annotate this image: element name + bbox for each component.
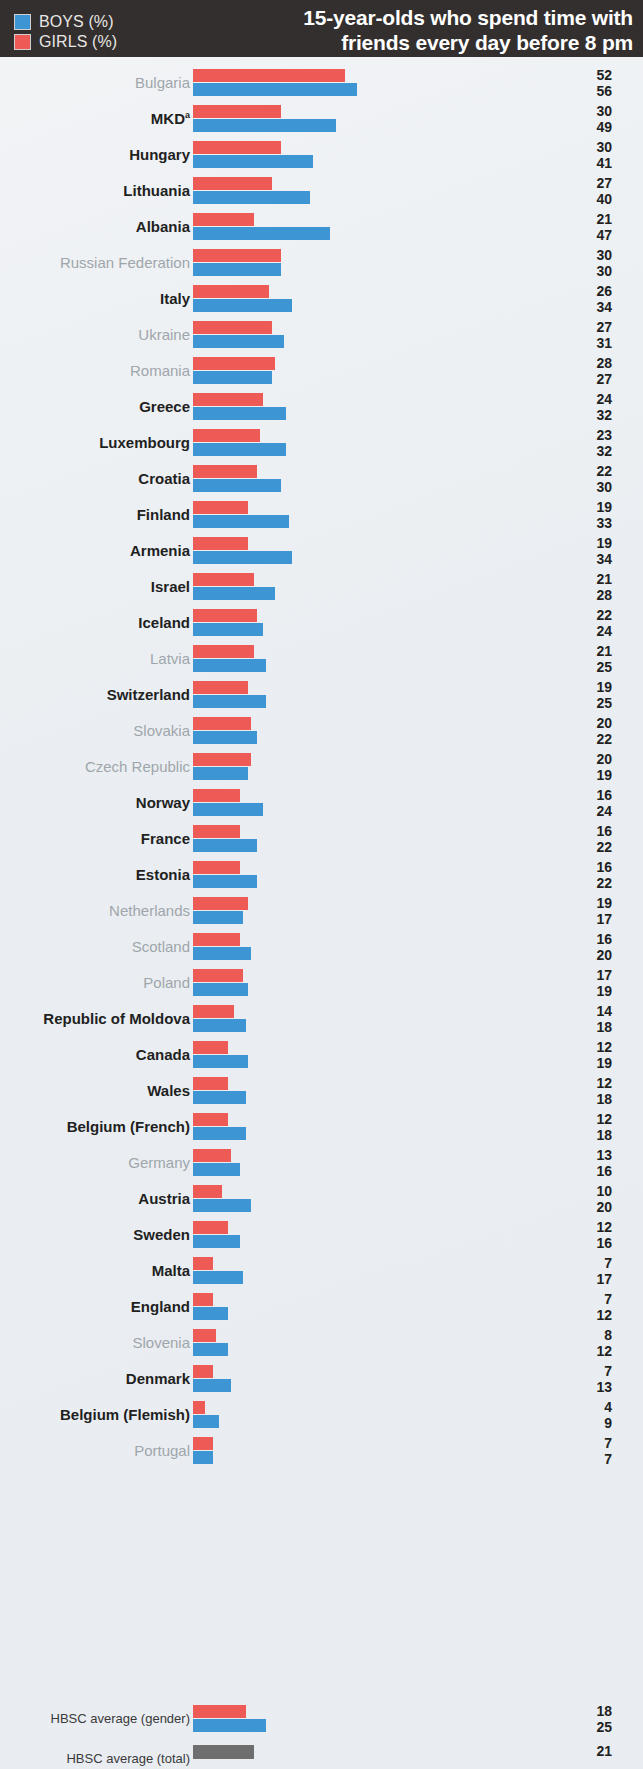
bar-girls (193, 141, 281, 154)
country-label: Greece (0, 389, 190, 425)
value-labels: 77 (560, 1433, 612, 1469)
value-labels: 1218 (560, 1109, 612, 1145)
bar-girls (193, 69, 345, 82)
value-labels: 712 (560, 1289, 612, 1325)
value-boys: 34 (560, 299, 612, 315)
bar-boys (193, 1719, 266, 1732)
country-row: Republic of Moldova1418 (0, 1001, 643, 1037)
bar-group (193, 713, 493, 749)
value-boys: 25 (560, 659, 612, 675)
bar-group (193, 929, 493, 965)
value-girls: 16 (560, 787, 612, 803)
bar-boys (193, 1235, 240, 1248)
bar-group (193, 353, 493, 389)
bar-group (193, 1361, 493, 1397)
chart-header: BOYS (%) GIRLS (%) 15-year-olds who spen… (0, 0, 643, 57)
country-row: Luxembourg2332 (0, 425, 643, 461)
value-girls: 21 (560, 211, 612, 227)
value-boys: 16 (560, 1235, 612, 1251)
value-labels: 1622 (560, 821, 612, 857)
value-girls: 14 (560, 1003, 612, 1019)
value-girls: 16 (560, 859, 612, 875)
value-labels: 1020 (560, 1181, 612, 1217)
bar-boys (193, 479, 281, 492)
country-row: Scotland1620 (0, 929, 643, 965)
value-boys: 19 (560, 983, 612, 999)
value-labels: 1925 (560, 677, 612, 713)
value-girls: 7 (560, 1291, 612, 1307)
value-labels: 2125 (560, 641, 612, 677)
value-boys: 47 (560, 227, 612, 243)
value-boys: 27 (560, 371, 612, 387)
value-labels: 2731 (560, 317, 612, 353)
chart-title: 15-year-olds who spend time with friends… (180, 0, 643, 57)
value-labels: 49 (560, 1397, 612, 1433)
country-row: Denmark713 (0, 1361, 643, 1397)
country-row: France1622 (0, 821, 643, 857)
value-boys: 56 (560, 83, 612, 99)
chart-title-line-1: 15-year-olds who spend time with (303, 5, 633, 30)
bar-group (193, 821, 493, 857)
country-row: Canada1219 (0, 1037, 643, 1073)
value-boys: 17 (560, 1271, 612, 1287)
value-labels: 2019 (560, 749, 612, 785)
country-row: Malta717 (0, 1253, 643, 1289)
country-row: Hungary3041 (0, 137, 643, 173)
bar-group (193, 209, 493, 245)
country-row: Greece2432 (0, 389, 643, 425)
value-girls: 28 (560, 355, 612, 371)
country-label: Italy (0, 281, 190, 317)
bar-boys (193, 335, 284, 348)
country-label: Romania (0, 353, 190, 389)
value-girls: 16 (560, 931, 612, 947)
country-label: Hungary (0, 137, 190, 173)
bar-girls (193, 861, 240, 874)
bar-group (193, 1433, 493, 1469)
bar-girls (193, 753, 251, 766)
value-labels: 2022 (560, 713, 612, 749)
bar-group (193, 749, 493, 785)
country-label: Iceland (0, 605, 190, 641)
bar-girls (193, 1113, 228, 1126)
bar-girls (193, 1365, 213, 1378)
bar-girls (193, 249, 281, 262)
chart-page: BOYS (%) GIRLS (%) 15-year-olds who spen… (0, 0, 643, 1769)
country-label: Austria (0, 1181, 190, 1217)
bar-boys (193, 875, 257, 888)
country-row: Iceland2224 (0, 605, 643, 641)
bar-girls (193, 1329, 216, 1342)
bar-girls (193, 393, 263, 406)
value-labels: 1719 (560, 965, 612, 1001)
bar-group (193, 1325, 493, 1361)
bar-group (193, 1181, 493, 1217)
bar-boys (193, 911, 243, 924)
country-label: Portugal (0, 1433, 190, 1469)
bar-boys (193, 587, 275, 600)
bar-boys (193, 1055, 248, 1068)
bar-group (193, 785, 493, 821)
bar-boys (193, 515, 289, 528)
value-labels: 2230 (560, 461, 612, 497)
bar-boys (193, 551, 292, 564)
country-label: Scotland (0, 929, 190, 965)
country-row: Lithuania2740 (0, 173, 643, 209)
bar-boys (193, 83, 357, 96)
country-label: Ukraine (0, 317, 190, 353)
value-labels: 3030 (560, 245, 612, 281)
bar-group (193, 101, 493, 137)
bar-girls (193, 357, 275, 370)
value-girls: 22 (560, 607, 612, 623)
bar-group (193, 1109, 493, 1145)
country-row: Bulgaria5256 (0, 65, 643, 101)
value-labels: 1624 (560, 785, 612, 821)
country-label: Croatia (0, 461, 190, 497)
value-girls: 23 (560, 427, 612, 443)
value-boys: 19 (560, 767, 612, 783)
country-row: Italy2634 (0, 281, 643, 317)
value-boys: 16 (560, 1163, 612, 1179)
value-girls: 4 (560, 1399, 612, 1415)
bar-girls (193, 1077, 228, 1090)
value-girls: 19 (560, 499, 612, 515)
bar-boys (193, 947, 251, 960)
value-girls: 12 (560, 1219, 612, 1235)
